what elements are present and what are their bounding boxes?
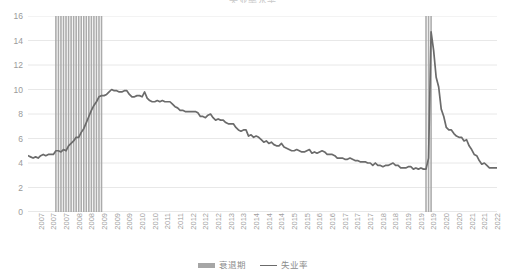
- y-axis-tick-label: 0: [18, 208, 23, 217]
- y-axis-tick-label: 14: [14, 36, 23, 45]
- y-axis-tick-label: 4: [18, 159, 23, 168]
- x-axis-tick-label: 2011: [164, 213, 172, 229]
- y-axis-tick-label: 10: [14, 85, 23, 94]
- x-axis-tick-label: 2022: [494, 213, 502, 230]
- legend-label-unemployment: 失业率: [281, 261, 308, 270]
- y-axis-tick-label: 16: [14, 12, 23, 21]
- x-axis-tick-label: 2016: [329, 213, 337, 230]
- x-axis-tick-label: 2017: [342, 213, 350, 230]
- x-axis-tick-label: 2021: [469, 213, 477, 230]
- x-axis-tick-label: 2020: [456, 213, 464, 230]
- unemployment-rate-chart: 失业率水平 0246810121416 20072007200720082008…: [0, 0, 506, 279]
- x-axis-tick-label: 2016: [316, 213, 324, 230]
- x-axis-tick-label: 2014: [266, 213, 274, 230]
- x-axis-tick-label: 2007: [38, 213, 46, 230]
- x-axis-tick-label: 2012: [215, 213, 223, 230]
- x-axis-tick-label: 2017: [367, 213, 375, 230]
- x-axis-tick-label: 2009: [126, 213, 134, 230]
- x-axis-tick-label: 2008: [88, 213, 96, 230]
- chart-canvas: [28, 16, 497, 212]
- unemployment-line-swatch-icon: [260, 265, 277, 266]
- x-axis-tick-label: 2014: [253, 213, 261, 230]
- x-axis-tick-label: 2015: [291, 213, 299, 230]
- x-axis-tick-label: 2019: [405, 213, 413, 230]
- x-axis-tick-label: 2008: [76, 213, 84, 230]
- page-title: 失业率水平: [0, 0, 506, 3]
- recession-swatch-icon: [198, 263, 215, 268]
- legend-item-recession: 衰退期: [198, 261, 246, 270]
- x-axis-tick-label: 2018: [380, 213, 388, 230]
- x-axis-tick-label: 2019: [430, 213, 438, 230]
- y-axis-tick-label: 6: [18, 134, 23, 143]
- x-axis-tick-label: 2009: [114, 213, 122, 230]
- x-axis-tick-label: 2014: [278, 213, 286, 230]
- x-axis-tick-label: 2011: [177, 213, 185, 229]
- x-axis-tick-label: 2012: [190, 213, 198, 230]
- legend-label-recession: 衰退期: [219, 261, 246, 270]
- x-axis-tick-label: 2007: [63, 213, 71, 230]
- x-axis-tick-label: 2012: [202, 213, 210, 230]
- y-axis-tick-label: 8: [18, 110, 23, 119]
- x-axis-tick-label: 2009: [101, 213, 109, 230]
- y-axis-tick-label: 12: [14, 61, 23, 70]
- x-axis-tick-label: 2010: [139, 213, 147, 230]
- y-axis-tick-label: 2: [18, 183, 23, 192]
- legend-item-unemployment: 失业率: [260, 261, 308, 270]
- x-axis-tick-label: 2017: [354, 213, 362, 230]
- chart-legend: 衰退期 失业率: [0, 261, 506, 270]
- x-axis-tick-label: 2010: [152, 213, 160, 230]
- x-axis-tick-label: 2020: [443, 213, 451, 230]
- x-axis-tick-label: 2015: [304, 213, 312, 230]
- x-axis-tick-label: 2021: [481, 213, 489, 230]
- x-axis-tick-label: 2013: [240, 213, 248, 230]
- x-axis-tick-label: 2013: [228, 213, 236, 230]
- x-axis-tick-label: 2018: [392, 213, 400, 230]
- x-axis-tick-label: 2007: [50, 213, 58, 230]
- x-axis-ticks: 2007200720072008200820092009200920102010…: [28, 213, 497, 255]
- x-axis-tick-label: 2019: [418, 213, 426, 230]
- plot-area: 0246810121416: [28, 16, 497, 212]
